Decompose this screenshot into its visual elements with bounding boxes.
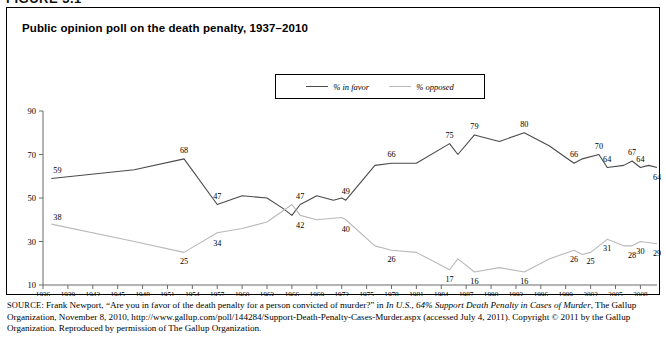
x-tick-label: 1939: [61, 292, 76, 296]
data-point-label-in-favor: 75: [445, 131, 453, 140]
data-point-label-opposed: 28: [628, 251, 636, 260]
x-tick-label: 1960: [235, 292, 250, 296]
data-point-label-in-favor: 49: [342, 187, 350, 196]
data-point-label-opposed: 34: [213, 239, 221, 248]
data-point-label-opposed: 25: [180, 257, 188, 266]
y-tick-label: 90: [28, 106, 37, 116]
data-point-label-in-favor: 68: [180, 146, 188, 155]
x-tick-label: 1966: [285, 292, 300, 296]
data-point-label-in-favor: 59: [53, 166, 61, 175]
data-point-label-in-favor: 47: [213, 192, 221, 201]
data-point-label-opposed: 26: [570, 255, 578, 264]
x-tick-label: 1987: [459, 292, 474, 296]
data-point-label-in-favor: 64: [653, 173, 661, 182]
x-tick-label: 1963: [260, 292, 275, 296]
x-tick-label: 1978: [384, 292, 399, 296]
source-prefix: SOURCE: [7, 301, 41, 310]
data-point-label-opposed: 40: [342, 225, 350, 234]
x-tick-label: 1999: [559, 292, 574, 296]
data-point-label-in-favor: 79: [470, 122, 478, 131]
figure-number-label: FIGURE 3.1: [6, 0, 82, 3]
x-tick-label: 1993: [509, 292, 524, 296]
y-tick-label: 30: [28, 237, 37, 247]
series-line-opposed: [51, 205, 657, 272]
x-tick-label: 1948: [135, 292, 150, 296]
chart-container: Public opinion poll on the death penalty…: [6, 7, 660, 295]
data-point-label-opposed: 30: [636, 247, 644, 256]
data-point-label-opposed: 29: [653, 249, 661, 258]
x-tick-label: 1972: [335, 292, 350, 296]
y-tick-label: 70: [28, 150, 37, 160]
x-tick-label: 1951: [160, 292, 175, 296]
x-tick-label: 2005: [608, 292, 623, 296]
series-line-in-favor: [51, 133, 657, 216]
data-point-label-in-favor: 67: [628, 148, 636, 157]
y-tick-label: 10: [28, 280, 37, 290]
source-italic-title: In U.S., 64% Support Death Penalty in Ca…: [386, 300, 591, 310]
data-point-label-in-favor: 80: [520, 120, 528, 129]
data-point-label-opposed: 31: [603, 244, 611, 253]
data-point-label-in-favor: 47: [296, 192, 304, 201]
data-point-label-opposed: 38: [53, 213, 61, 222]
data-point-label-in-favor: 70: [595, 142, 603, 151]
data-point-label-opposed: 17: [445, 275, 453, 284]
source-text-1: : Frank Newport, “Are you in favor of th…: [41, 300, 386, 310]
data-point-label-opposed: 26: [387, 255, 395, 264]
x-tick-label: 2008: [633, 292, 648, 296]
x-tick-label: 1975: [359, 292, 374, 296]
x-tick-label: 1954: [185, 292, 200, 296]
figure-page: FIGURE 3.1 Public opinion poll on the de…: [0, 0, 666, 349]
x-tick-label: 1936: [36, 292, 51, 296]
x-tick-label: 2002: [583, 292, 598, 296]
data-point-label-in-favor: 64: [636, 155, 644, 164]
x-tick-label: 1969: [310, 292, 325, 296]
data-point-label-in-favor: 66: [570, 150, 578, 159]
x-tick-label: 1945: [110, 292, 125, 296]
data-point-label-opposed: 42: [296, 221, 304, 230]
data-point-label-in-favor: 64: [603, 155, 611, 164]
data-point-label-opposed: 16: [520, 277, 528, 286]
source-note: SOURCE: Frank Newport, “Are you in favor…: [7, 300, 659, 335]
data-point-label-in-favor: 66: [387, 150, 395, 159]
x-tick-label: 1984: [434, 292, 449, 296]
data-point-label-opposed: 16: [470, 277, 478, 286]
x-tick-label: 1996: [534, 292, 549, 296]
data-point-label-opposed: 25: [587, 257, 595, 266]
line-plot: 1030507090193619391942194519481951195419…: [7, 8, 661, 296]
x-tick-label: 1981: [409, 292, 424, 296]
x-tick-label: 1990: [484, 292, 499, 296]
x-tick-label: 1942: [86, 292, 101, 296]
y-tick-label: 50: [28, 193, 37, 203]
x-tick-label: 1957: [210, 292, 225, 296]
